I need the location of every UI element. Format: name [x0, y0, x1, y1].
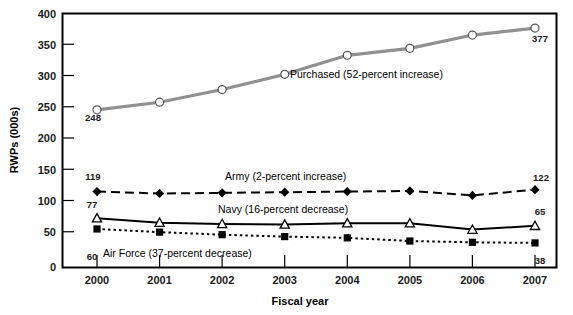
- data-point-marker: [344, 234, 351, 241]
- data-point-marker: [281, 233, 288, 240]
- y-tick-300: 300: [38, 70, 56, 82]
- y-tick-250: 250: [38, 101, 56, 113]
- x-tick-2002: 2002: [210, 274, 234, 286]
- y-tick-350: 350: [38, 39, 56, 51]
- data-point-marker: [156, 229, 163, 236]
- line-chart: 400 350 300 250 200 150 100 50 0 RWPs (0…: [0, 0, 573, 315]
- data-point-marker: [218, 86, 226, 94]
- value-label-army-end: 122: [533, 172, 549, 183]
- data-point-marker: [469, 239, 476, 246]
- y-tick-50: 50: [44, 226, 56, 238]
- y-tick-200: 200: [38, 132, 56, 144]
- value-label-navy-start: 77: [87, 199, 98, 210]
- y-tick-400: 400: [38, 8, 56, 20]
- y-tick-100: 100: [38, 195, 56, 207]
- y-axis-title: RWPs (000s): [8, 106, 20, 173]
- value-label-purchased-end: 377: [532, 33, 548, 44]
- x-axis-tick-labels: 2000 2001 2002 2003 2004 2005 2006 2007: [85, 274, 547, 286]
- value-label-airforce-start: 60: [87, 251, 98, 262]
- series-annotation-airforce: Air Force (37-percent decrease): [103, 247, 252, 259]
- value-label-purchased-start: 248: [85, 112, 101, 123]
- y-axis-tick-labels: 400 350 300 250 200 150 100 50 0: [38, 8, 56, 274]
- series-annotation-navy: Navy (16-percent decrease): [218, 203, 348, 215]
- x-tick-2006: 2006: [460, 274, 484, 286]
- x-tick-2000: 2000: [85, 274, 109, 286]
- data-point-marker: [406, 44, 414, 52]
- x-tick-2001: 2001: [147, 274, 171, 286]
- value-label-navy-end: 65: [535, 206, 546, 217]
- x-axis-title: Fiscal year: [272, 295, 330, 307]
- data-point-marker: [406, 237, 413, 244]
- data-point-marker: [281, 70, 289, 78]
- x-tick-2003: 2003: [272, 274, 296, 286]
- data-point-marker: [156, 98, 164, 106]
- data-point-marker: [343, 51, 351, 59]
- y-tick-150: 150: [38, 164, 56, 176]
- value-label-airforce-end: 38: [535, 255, 546, 266]
- y-tick-0: 0: [50, 261, 56, 273]
- x-tick-2005: 2005: [398, 274, 422, 286]
- chart-container: 400 350 300 250 200 150 100 50 0 RWPs (0…: [0, 0, 573, 315]
- data-point-marker: [531, 239, 538, 246]
- data-point-marker: [219, 231, 226, 238]
- x-tick-2004: 2004: [335, 274, 360, 286]
- x-tick-2007: 2007: [523, 274, 547, 286]
- series-annotation-army: Army (2-percent increase): [225, 170, 346, 182]
- data-point-marker: [531, 24, 539, 32]
- series-annotation-purchased: Purchased (52-percent increase): [290, 68, 443, 80]
- data-point-marker: [93, 225, 100, 232]
- data-point-marker: [468, 31, 476, 39]
- value-label-army-start: 119: [85, 171, 100, 182]
